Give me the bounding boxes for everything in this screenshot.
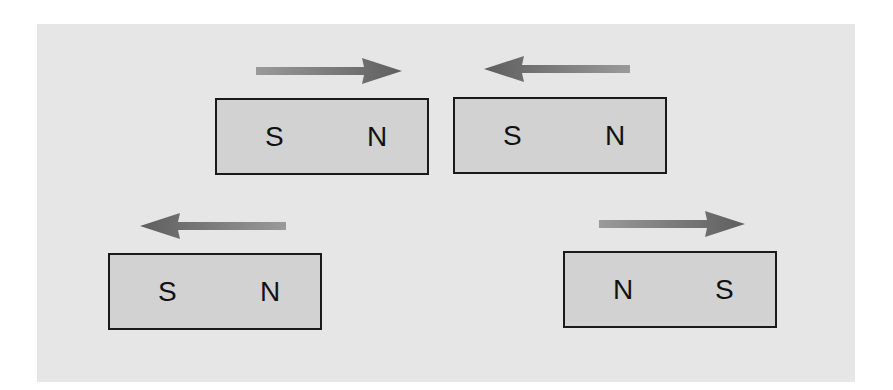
magnet-bottom-left: S N: [108, 253, 322, 330]
pole-label: N: [605, 122, 625, 150]
magnet-bottom-right: N S: [563, 251, 777, 328]
pole-label: S: [503, 122, 522, 150]
pole-label: N: [367, 123, 387, 151]
magnet-top-right: S N: [453, 97, 667, 174]
pole-label: N: [260, 278, 280, 306]
arrow-left-icon: [138, 213, 286, 239]
pole-label: S: [265, 123, 284, 151]
arrow-right-icon: [256, 58, 404, 84]
pole-label: S: [715, 276, 734, 304]
arrow-right-icon: [599, 211, 747, 237]
magnet-top-left: S N: [215, 98, 429, 175]
pole-label: S: [158, 278, 177, 306]
pole-label: N: [613, 276, 633, 304]
arrow-left-icon: [482, 56, 630, 82]
